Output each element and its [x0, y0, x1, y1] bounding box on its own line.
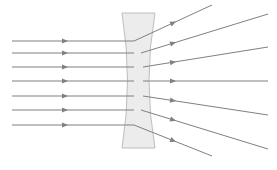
ray-diagram-canvas: [0, 0, 277, 170]
optics-ray-diagram: [0, 0, 277, 170]
